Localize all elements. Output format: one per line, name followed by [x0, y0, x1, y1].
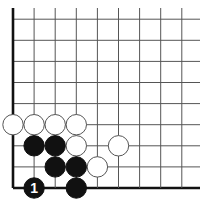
white-stone	[66, 136, 86, 156]
black-stone	[45, 157, 65, 177]
white-stone	[66, 115, 86, 135]
black-stone	[24, 136, 44, 156]
go-board[interactable]: 1	[0, 0, 200, 202]
black-stone	[45, 136, 65, 156]
white-stone	[87, 157, 107, 177]
white-stone	[45, 115, 65, 135]
black-stone: 1	[24, 178, 44, 198]
white-stone	[24, 115, 44, 135]
black-stone	[66, 178, 86, 198]
white-stone	[3, 115, 23, 135]
black-stone	[66, 157, 86, 177]
move-number-label: 1	[30, 180, 38, 196]
white-stone	[108, 136, 128, 156]
